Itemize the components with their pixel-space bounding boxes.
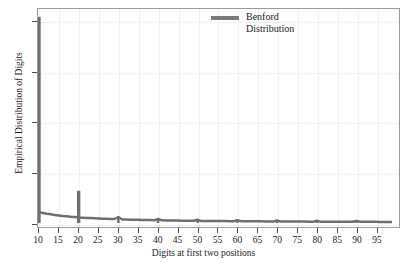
x-tick-mark <box>217 228 218 233</box>
x-tick-mark <box>237 228 238 233</box>
plot-area <box>37 8 400 228</box>
benford-distribution-chart: 0.00.20.40.60.8 Empirical Distribution o… <box>0 0 407 263</box>
x-tick-mark <box>198 228 199 233</box>
x-tick-mark <box>178 228 179 233</box>
x-tick-mark <box>138 228 139 233</box>
x-tick-mark <box>377 228 378 233</box>
x-tick-label: 95 <box>362 235 392 245</box>
x-tick-mark <box>58 228 59 233</box>
x-tick-mark <box>337 228 338 233</box>
x-tick-mark <box>297 228 298 233</box>
series-benford-distribution <box>38 9 399 227</box>
y-axis-title: Empirical Distribution of Digits <box>14 0 24 228</box>
x-tick-mark <box>78 228 79 233</box>
x-tick-mark <box>317 228 318 233</box>
x-tick-mark <box>277 228 278 233</box>
x-tick-mark <box>158 228 159 233</box>
x-axis-title: Digits at first two positions <box>0 248 407 258</box>
legend-label-benford: Benford Distribution <box>246 11 322 34</box>
x-tick-mark <box>257 228 258 233</box>
legend-swatch-benford <box>211 16 239 20</box>
x-tick-mark <box>98 228 99 233</box>
x-tick-mark <box>38 228 39 233</box>
x-tick-mark <box>357 228 358 233</box>
x-tick-mark <box>118 228 119 233</box>
chart-legend: Benford Distribution <box>211 11 322 34</box>
data-line-benford <box>39 212 392 222</box>
